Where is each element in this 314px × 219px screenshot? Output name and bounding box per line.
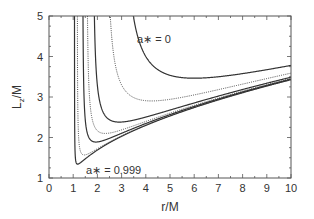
curve-spin-0-9	[87, 0, 291, 133]
x-axis-label: r/M	[161, 200, 178, 214]
x-tick-label: 6	[191, 182, 197, 194]
x-tick-label: 10	[285, 182, 297, 194]
y-tick-label: 4	[37, 51, 43, 63]
x-tick-label: 8	[240, 182, 246, 194]
x-tick-label: 4	[143, 182, 149, 194]
annotation-a0: a∗ = 0	[137, 33, 171, 45]
svg-text:Lz/M: Lz/M	[10, 85, 26, 109]
x-tick-label: 2	[94, 182, 100, 194]
y-tick-label: 1	[37, 172, 43, 184]
y-tick-labels: 12345	[37, 10, 43, 184]
x-tick-label: 9	[264, 182, 270, 194]
y-axis-label: Lz/M	[10, 85, 26, 109]
curves	[74, 0, 291, 164]
x-tick-label: 3	[119, 182, 125, 194]
x-tick-label: 1	[70, 182, 76, 194]
x-tick-label: 0	[46, 182, 52, 194]
chart: 012345678910 12345 r/M Lz/M a∗ = 0 a∗ = …	[0, 0, 314, 219]
x-tick-label: 7	[215, 182, 221, 194]
x-tick-labels: 012345678910	[46, 182, 297, 194]
curve-spin-0-8	[94, 0, 291, 122]
x-tick-label: 5	[167, 182, 173, 194]
y-tick-label: 3	[37, 91, 43, 103]
annotation-a0999: a∗ = 0.999	[86, 164, 141, 176]
y-tick-label: 2	[37, 132, 43, 144]
y-tick-label: 5	[37, 10, 43, 22]
y-axis-label-tail: /M	[10, 85, 24, 98]
